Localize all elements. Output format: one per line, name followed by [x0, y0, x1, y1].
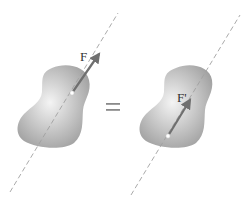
equals-sign [106, 103, 120, 111]
left-line-of-action [10, 13, 118, 192]
left-panel: F [10, 13, 118, 192]
left-rigid-body [18, 65, 90, 147]
right-panel: F' [131, 15, 240, 195]
right-line-of-action [131, 15, 240, 195]
right-point-of-application [166, 134, 170, 138]
right-rigid-body [140, 65, 213, 147]
transmissibility-diagram: F F' [0, 0, 249, 200]
right-force-label: F' [177, 90, 187, 105]
left-force-label: F [80, 49, 87, 64]
left-point-of-application [70, 91, 74, 95]
